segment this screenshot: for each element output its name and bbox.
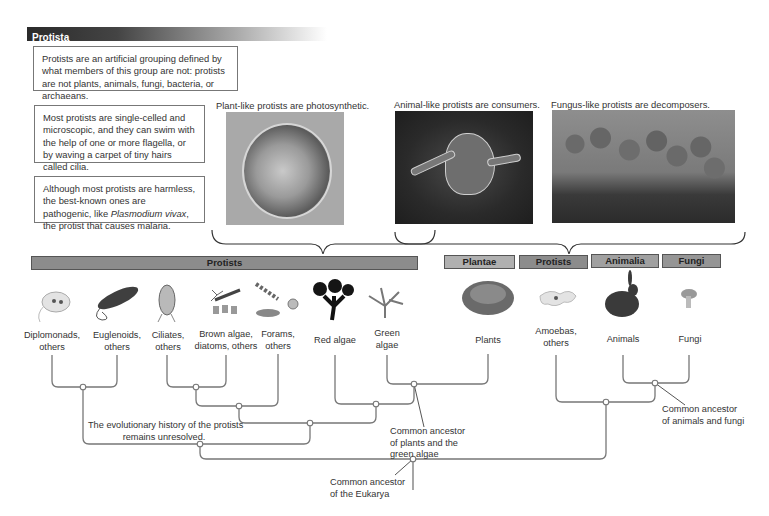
node-diplomonads-euglenoids [80,384,86,390]
node-archaeplastida [373,401,379,407]
pointer-eukarya-ancestor [395,459,413,475]
node-animals-fungi [652,380,658,386]
node-sar-archaeplastida [307,420,313,426]
branch-sar-archaeplastida [239,404,376,423]
branch-green-algae-plants [387,354,488,384]
node-green-algae-plants [411,381,417,387]
branch-forams [196,354,278,406]
annotation-unresolved: The evolutionary history of the protists… [88,420,240,443]
branch-amoebas [556,355,655,402]
pointer-plants-ancestor [414,384,424,427]
annotation-animals-fungi-ancestor: Common ancestor of animals and fungi [662,404,744,427]
annotation-plants-ancestor: Common ancestor of plants and the green … [390,426,465,461]
node-unikonts [603,399,609,405]
branch-animals-fungi [623,355,689,383]
node-sar [236,403,242,409]
node-ciliates-brown-algae [193,384,199,390]
branch-ciliates-brown-algae [167,355,226,387]
branch-red-algae [335,355,414,404]
annotation-eukarya-ancestor: Common ancestor of the Eukarya [330,477,405,500]
pointer-animals-fungi-ancestor [655,383,685,405]
branch-diplomonads-euglenoids [52,355,117,387]
